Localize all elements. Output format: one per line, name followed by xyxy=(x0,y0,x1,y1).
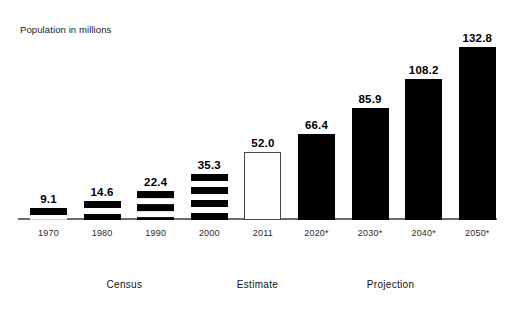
bar-value-label-1970: 9.1 xyxy=(40,193,57,205)
bar-2040 xyxy=(405,79,442,220)
bar-value-label-2020: 66.4 xyxy=(305,119,328,131)
x-tick-2050: 2050* xyxy=(451,228,504,238)
bar-2050 xyxy=(459,47,496,220)
x-tick-1970: 1970 xyxy=(22,228,75,238)
chart-legend: CensusEstimateProjection xyxy=(18,274,497,294)
x-tick-2030: 2030* xyxy=(344,228,397,238)
bar-value-label-2030: 85.9 xyxy=(359,93,382,105)
bar-group-1990: 22.4 xyxy=(137,2,174,220)
bar-value-label-2040: 108.2 xyxy=(409,64,439,76)
bar-group-2050: 132.8 xyxy=(459,2,496,220)
x-tick-2011: 2011 xyxy=(236,228,289,238)
bar-value-label-1980: 14.6 xyxy=(91,186,114,198)
bar-group-2030: 85.9 xyxy=(352,2,389,220)
bar-value-label-1990: 22.4 xyxy=(144,176,167,188)
bar-value-label-2050: 132.8 xyxy=(462,32,492,44)
bar-group-1980: 14.6 xyxy=(84,2,121,220)
x-tick-2020: 2020* xyxy=(290,228,343,238)
plot-area: 9.114.622.435.352.066.485.9108.2132.8 19… xyxy=(0,0,515,220)
x-tick-2000: 2000 xyxy=(183,228,236,238)
bar-group-2000: 35.3 xyxy=(191,2,228,220)
bar-group-1970: 9.1 xyxy=(30,2,67,220)
bar-group-2020: 66.4 xyxy=(298,2,335,220)
x-tick-1990: 1990 xyxy=(129,228,182,238)
bar-2030 xyxy=(352,108,389,220)
bar-group-2040: 108.2 xyxy=(405,2,442,220)
bar-1990 xyxy=(137,191,174,220)
bar-value-label-2011: 52.0 xyxy=(251,137,274,149)
bar-2011 xyxy=(244,152,281,220)
population-bar-chart: Population in millions 9.114.622.435.352… xyxy=(0,0,515,310)
x-tick-2040: 2040* xyxy=(397,228,450,238)
legend-label-census: Census xyxy=(107,279,143,290)
bar-1970 xyxy=(30,208,67,220)
bar-1980 xyxy=(84,201,121,220)
legend-label-projection: Projection xyxy=(367,279,414,290)
legend-label-estimate: Estimate xyxy=(237,279,278,290)
bar-value-label-2000: 35.3 xyxy=(198,159,221,171)
bar-2020 xyxy=(298,134,335,220)
x-tick-1980: 1980 xyxy=(76,228,129,238)
bar-2000 xyxy=(191,174,228,220)
legend-segment-estimate: Estimate xyxy=(231,274,284,294)
legend-segment-projection: Projection xyxy=(284,274,497,294)
bar-group-2011: 52.0 xyxy=(244,2,281,220)
legend-segment-census: Census xyxy=(18,274,231,294)
